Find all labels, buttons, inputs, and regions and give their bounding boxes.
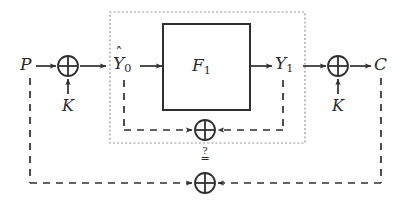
label-plaintext: P [20, 56, 31, 73]
comparison-symbol: ? = [193, 146, 217, 162]
diagram-canvas: P K ˆY0 F1 Y1 K C ? = [0, 0, 405, 205]
xor-gate-key-left [58, 56, 78, 76]
label-f1-subscript: 1 [204, 64, 211, 77]
label-y1: Y1 [275, 55, 293, 74]
label-y1-subscript: 1 [286, 62, 293, 75]
label-key-right: K [332, 98, 344, 114]
label-key-left: K [62, 98, 74, 114]
xor-gate-inner [195, 120, 215, 140]
label-function-f1: F1 [192, 57, 211, 76]
label-y1-base: Y [275, 53, 286, 73]
label-y0-hatgroup: ˆY [113, 55, 124, 72]
hat-accent-icon: ˆ [115, 46, 122, 61]
xor-gate-bottom [195, 173, 215, 193]
comparison-equals-sign: = [193, 155, 217, 162]
label-y0: ˆY0 [113, 55, 131, 74]
diagram-vector-layer [0, 0, 405, 205]
label-f1-base: F [192, 55, 204, 75]
label-y0-subscript: 0 [124, 62, 131, 75]
label-ciphertext: C [374, 56, 387, 73]
xor-gate-key-right [328, 56, 348, 76]
